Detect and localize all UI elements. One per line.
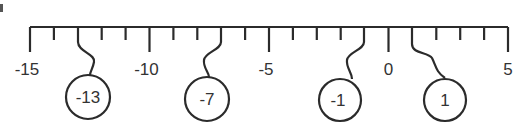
- tick-label: 5: [503, 60, 512, 79]
- tick-marks: [30, 27, 508, 52]
- tick-label: 0: [384, 60, 393, 79]
- tag-string: [347, 27, 364, 79]
- tag-minus-1: -1: [319, 27, 364, 121]
- cropped-glyph: [0, 4, 3, 12]
- tag-label: 1: [440, 91, 449, 110]
- tick-label: -10: [134, 60, 159, 79]
- tag-string: [412, 27, 445, 78]
- tag-label: -1: [330, 91, 345, 110]
- tag-plus-1: 1: [412, 27, 466, 121]
- tag-string: [204, 27, 221, 77]
- tag-minus-7: -7: [185, 27, 229, 121]
- tick-label: -5: [258, 60, 273, 79]
- tag-string: [78, 27, 94, 75]
- tag-minus-13: -13: [66, 27, 110, 119]
- tag-label: -13: [76, 88, 101, 107]
- tick-label: -15: [15, 60, 40, 79]
- number-line-diagram: -15-10-505 -13 -7 -1 1: [0, 0, 513, 131]
- tag-label: -7: [199, 90, 214, 109]
